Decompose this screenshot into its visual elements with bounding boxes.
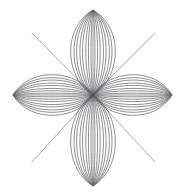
figure-canvas (0, 0, 187, 195)
rosette-figure (0, 0, 187, 195)
center-point (92, 94, 95, 97)
